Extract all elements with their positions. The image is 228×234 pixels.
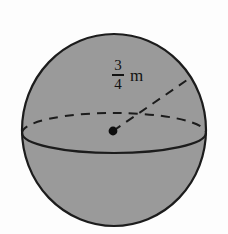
fraction-denominator: 4 — [113, 77, 123, 92]
sphere-diagram: 3 4 m — [0, 0, 228, 234]
fraction-three-fourths: 3 4 — [112, 58, 124, 92]
sphere-graphic — [0, 0, 228, 234]
center-dot — [109, 127, 118, 136]
radius-measurement-label: 3 4 m — [112, 58, 143, 92]
unit-label: m — [130, 67, 143, 84]
fraction-numerator: 3 — [113, 58, 123, 73]
